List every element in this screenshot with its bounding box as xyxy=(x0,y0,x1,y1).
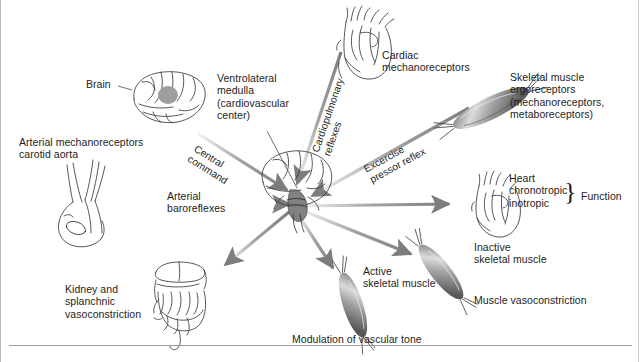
afferent-arrows xyxy=(161,52,469,204)
brain-leader-line xyxy=(118,86,132,90)
label-arterial-mechanoreceptors: Arterial mechanoreceptors carotid aorta xyxy=(19,136,143,161)
label-kidney-splanchnic-vasoconstriction: Kidney and splanchnic vasoconstriction xyxy=(65,283,141,320)
label-muscle-vasoconstriction: Muscle vasoconstriction xyxy=(474,294,587,306)
efferent-arrows xyxy=(225,204,449,268)
kidney-splanchnic-viscera-illustration xyxy=(154,262,207,350)
carotid-aorta-illustration xyxy=(59,160,106,247)
medulla-leader-line xyxy=(267,131,297,188)
bottom-divider xyxy=(9,345,632,346)
label-skeletal-muscle-ergoreceptors: Skeletal muscle ergoreceptors (mechanore… xyxy=(510,71,604,121)
label-function: Function xyxy=(581,190,622,202)
function-brace-icon: } xyxy=(564,179,576,205)
label-modulation-of-vascular-tone: Modulation of vascular tone xyxy=(292,333,422,345)
label-active-skeletal-muscle: Active skeletal muscle xyxy=(363,265,436,290)
figure-canvas: Brain Arterial mechanoreceptors carotid … xyxy=(0,0,639,362)
arrow-label-arterial-baroreflexes: Arterial baroreflexes xyxy=(167,190,225,215)
brain-lateral-illustration xyxy=(134,72,205,123)
label-inactive-skeletal-muscle: Inactive skeletal muscle xyxy=(474,241,547,266)
arrow-label-cardiopulmonary-reflexes: Cardiopulmonary reflexes xyxy=(310,77,357,158)
brain-brainstem-hub-illustration xyxy=(262,151,332,233)
label-ventrolateral-medulla: Ventrolateral medulla (cardiovascular ce… xyxy=(217,72,289,122)
label-heart-function: Heart chronotropic inotropic xyxy=(509,172,567,209)
label-cardiac-mechanoreceptors: Cardiac mechanoreceptors xyxy=(382,49,470,74)
arrow-label-excercise-pressor-reflex: Excercise pressor reflex xyxy=(362,135,427,185)
label-brain: Brain xyxy=(86,78,111,90)
arrow-label-central-command: Central command xyxy=(186,143,236,186)
